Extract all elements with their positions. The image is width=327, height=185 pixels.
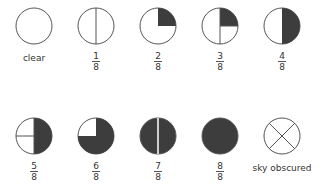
symbol-seven-eighths: 7 8 [127, 116, 189, 184]
fraction: 7 8 [154, 161, 162, 182]
symbol-six-eighths: 6 8 [65, 116, 127, 184]
symbol-one-eighth: 1 8 [65, 6, 127, 74]
four-eighths-circle-icon [262, 6, 302, 46]
symbol-two-eighths: 2 8 [127, 6, 189, 74]
fraction: 2 8 [154, 51, 162, 72]
fraction: 5 8 [30, 161, 38, 182]
fraction: 4 8 [278, 51, 286, 72]
eight-eighths-circle-icon [200, 116, 240, 156]
symbol-sky-obscured: sky obscured [251, 116, 313, 173]
fraction: 3 8 [216, 51, 224, 72]
three-eighths-circle-icon [200, 6, 240, 46]
one-eighth-circle-icon [76, 6, 116, 46]
symbol-label: clear [3, 53, 65, 63]
symbol-label: sky obscured [251, 163, 313, 173]
fraction: 1 8 [92, 51, 100, 72]
fraction: 6 8 [92, 161, 100, 182]
symbol-clear: clear [3, 6, 65, 63]
two-eighths-circle-icon [138, 6, 178, 46]
symbol-three-eighths: 3 8 [189, 6, 251, 74]
sky-obscured-circle-icon [262, 116, 302, 156]
symbol-five-eighths: 5 8 [3, 116, 65, 184]
six-eighths-circle-icon [76, 116, 116, 156]
symbol-eight-eighths: 8 8 [189, 116, 251, 184]
clear-circle-icon [14, 6, 54, 46]
seven-eighths-circle-icon [138, 116, 178, 156]
five-eighths-circle-icon [14, 116, 54, 156]
symbol-four-eighths: 4 8 [251, 6, 313, 74]
fraction: 8 8 [216, 161, 224, 182]
